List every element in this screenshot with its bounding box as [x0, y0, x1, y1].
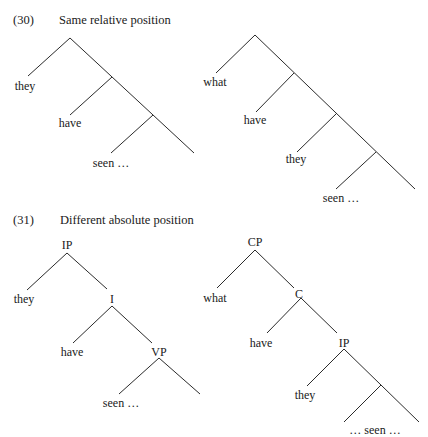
- tree-31a-node-i: I: [110, 293, 114, 305]
- tree-31b-branches: [217, 250, 419, 422]
- tree-30b-branches: [216, 35, 415, 189]
- tree-30a-word-they: they: [15, 80, 36, 92]
- tree-30a-word-have: have: [59, 117, 82, 129]
- tree-30b-word-seen: seen …: [323, 192, 359, 204]
- tree-31a-node-vp: VP: [151, 346, 166, 358]
- example-31-number: (31): [13, 214, 34, 226]
- tree-31b-node-cp: CP: [248, 236, 263, 248]
- tree-30a-branches: [28, 38, 194, 153]
- tree-31a-word-have: have: [61, 346, 84, 358]
- tree-31b-word-they: they: [295, 389, 316, 401]
- tree-31a-word-they: they: [14, 293, 35, 305]
- tree-30a-word-seen: seen …: [93, 157, 129, 169]
- example-31-title: Different absolute position: [60, 214, 194, 226]
- tree-31a-word-seen: seen …: [103, 397, 139, 409]
- tree-31b-word-seen: … seen …: [349, 424, 400, 436]
- tree-31b-word-have: have: [250, 337, 273, 349]
- tree-30b-word-have: have: [244, 114, 267, 126]
- tree-30b-word-they: they: [286, 153, 307, 165]
- example-30-number: (30): [13, 14, 34, 26]
- tree-31b-word-what: what: [203, 292, 226, 304]
- tree-31b-node-c: C: [295, 288, 303, 300]
- tree-30b-word-what: what: [203, 76, 226, 88]
- tree-31a-branches: [27, 253, 200, 394]
- tree-31a-node-ip: IP: [62, 239, 73, 251]
- example-30-title: Same relative position: [59, 14, 171, 26]
- tree-31b-node-ip: IP: [339, 337, 350, 349]
